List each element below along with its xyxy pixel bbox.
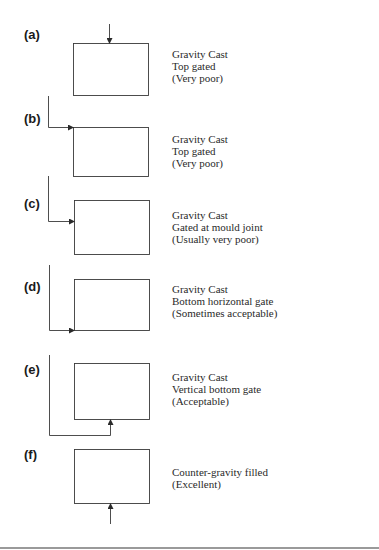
panel-label-a: (a) bbox=[24, 28, 40, 41]
panel-b-description: Gravity Cast Top gated (Very poor) bbox=[172, 133, 228, 169]
panel-label-e: (e) bbox=[24, 363, 40, 376]
right-arrow-icon bbox=[49, 176, 75, 222]
gating-diagram: (a) (b) (c) (d) (e) (f) Gravity Cast Top… bbox=[0, 0, 379, 550]
right-arrow-icon bbox=[49, 96, 74, 128]
panel-b-mould bbox=[49, 96, 149, 177]
description-line: Gravity Cast bbox=[172, 371, 261, 383]
description-line: Vertical bottom gate bbox=[172, 383, 261, 395]
right-arrow-icon bbox=[50, 265, 75, 331]
description-line: (Sometimes acceptable) bbox=[172, 307, 277, 319]
description-line: Top gated bbox=[172, 145, 228, 157]
description-line: (Very poor) bbox=[172, 157, 228, 169]
description-line: Gravity Cast bbox=[172, 283, 277, 295]
description-line: (Very poor) bbox=[172, 72, 228, 84]
description-line: Gravity Cast bbox=[172, 48, 228, 60]
panel-e-description: Gravity Cast Vertical bottom gate (Accep… bbox=[172, 371, 261, 407]
panel-d-mould bbox=[50, 265, 150, 331]
panel-f-mould bbox=[75, 450, 150, 525]
panel-c-description: Gravity Cast Gated at mould joint (Usual… bbox=[172, 209, 263, 245]
description-line: Bottom horizontal gate bbox=[172, 295, 277, 307]
panel-label-c: (c) bbox=[24, 197, 40, 210]
panel-a-description: Gravity Cast Top gated (Very poor) bbox=[172, 48, 228, 84]
panel-c-mould bbox=[49, 176, 150, 255]
panel-label-d: (d) bbox=[24, 280, 41, 293]
panel-d-description: Gravity Cast Bottom horizontal gate (Som… bbox=[172, 283, 277, 319]
bottom-divider bbox=[0, 547, 379, 549]
up-arrow-icon bbox=[50, 355, 111, 436]
description-line: Top gated bbox=[172, 60, 228, 72]
description-line: (Excellent) bbox=[172, 478, 268, 490]
description-line: (Acceptable) bbox=[172, 395, 261, 407]
panel-a-mould bbox=[74, 24, 149, 96]
description-line: Counter-gravity filled bbox=[172, 466, 268, 478]
description-line: Gated at mould joint bbox=[172, 221, 263, 233]
description-line: Gravity Cast bbox=[172, 209, 263, 221]
panel-label-b: (b) bbox=[24, 112, 41, 125]
panel-e-mould bbox=[50, 355, 150, 436]
panel-f-description: Counter-gravity filled (Excellent) bbox=[172, 466, 268, 490]
description-line: Gravity Cast bbox=[172, 133, 228, 145]
panel-label-f: (f) bbox=[24, 448, 37, 461]
description-line: (Usually very poor) bbox=[172, 233, 263, 245]
